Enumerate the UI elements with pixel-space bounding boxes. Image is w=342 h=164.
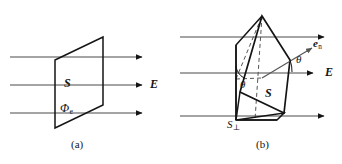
flux-symbol: Φ <box>60 101 69 115</box>
figure-canvas <box>0 0 342 164</box>
angle-arc-upper <box>290 60 292 72</box>
surface-label-b: S <box>265 87 272 99</box>
projected-surface-label: S⊥ <box>227 119 240 132</box>
electric-flux-figure: S Φe E (a) en θ θ E S S⊥ (b) <box>0 0 342 164</box>
angle-label-lower: θ <box>240 79 245 90</box>
surface-label-a: S <box>64 77 71 89</box>
panel-a-field-lines <box>10 57 142 113</box>
panel-a-group <box>10 37 142 128</box>
field-label-a: E <box>150 78 158 90</box>
angle-label-upper: θ <box>296 54 301 65</box>
normal-vector-label: en <box>313 38 322 51</box>
perpendicular-symbol: ⊥ <box>233 123 241 132</box>
caption-b: (b) <box>256 139 269 150</box>
flux-subscript: e <box>69 107 73 116</box>
field-label-b: E <box>325 66 333 78</box>
projected-symbol: S <box>227 118 233 130</box>
caption-a: (a) <box>71 139 83 150</box>
dashed-back-left-edge <box>236 16 262 79</box>
flux-label-a: Φe <box>60 102 73 116</box>
panel-b-group <box>180 16 324 120</box>
normal-subscript: n <box>318 43 322 51</box>
